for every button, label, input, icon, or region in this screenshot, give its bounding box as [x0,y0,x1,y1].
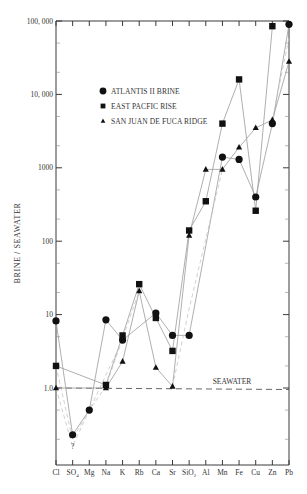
y-tick-label: 1000 [38,163,53,172]
y-tick-label: 100, 000 [27,17,54,26]
circle-marker [285,21,292,28]
x-category-label: Pb [285,468,293,477]
y-tick-label: 100 [42,237,54,246]
trend-dashed-line [56,291,139,447]
x-category-label: Al [202,468,210,477]
legend-label: SAN JUAN DE FUCA RIDGE [111,117,208,126]
x-category-label: Mg [84,468,95,477]
x-category-label: Na [102,468,111,477]
circle-marker [235,156,242,163]
square-marker [269,23,275,29]
x-category-label: Mn [217,468,228,477]
square-marker [53,363,59,369]
triangle-marker [153,364,159,370]
circle-marker [169,332,176,339]
series-markers: ? [52,21,292,452]
x-category-label: Fe [235,468,243,477]
circle-marker [186,332,193,339]
circle-marker [219,153,226,160]
y-tick-label: 10, 000 [31,90,54,99]
circle-marker [102,316,109,323]
question-mark-annotation: ? [71,442,75,451]
square-marker [101,104,106,109]
triangle-marker [53,385,59,391]
triangle-marker [101,118,106,122]
legend-item: ATLANTIS II BRINE [100,87,181,96]
y-tick-label: 1.0 [44,384,54,393]
x-category-label: SO4 [67,468,80,478]
circle-marker [52,317,59,324]
square-marker [169,348,175,354]
triangle-marker [286,58,292,64]
seawater-label: SEAWATER [213,377,252,386]
square-marker [219,120,225,126]
legend-label: EAST PACFIC RISE [111,102,177,111]
x-category-label: Cl [52,468,59,477]
triangle-marker [269,116,275,122]
square-marker [136,281,142,287]
y-axis-label: BRINE / SEAWATER [13,202,22,283]
x-category-label: Ca [152,468,161,477]
legend-label: ATLANTIS II BRINE [111,87,180,96]
x-category-label: Zn [268,468,277,477]
triangle-marker [253,125,259,131]
axes: 100, 00010, 0001000100101.0ClSO4MgNaKRbC… [27,17,293,479]
circle-marker [252,193,259,200]
square-marker [253,208,259,214]
legend-item: SAN JUAN DE FUCA RIDGE [101,117,208,126]
x-category-label: K [120,468,126,477]
circle-marker [69,431,76,438]
chart-canvas: 100, 00010, 0001000100101.0ClSO4MgNaKRbC… [0,0,307,494]
circle-marker [100,88,107,95]
legend: ATLANTIS II BRINEEAST PACFIC RISESAN JUA… [100,87,208,126]
y-tick-label: 10 [46,310,54,319]
x-category-label: Sr [169,468,176,477]
square-marker [236,76,242,82]
legend-item: EAST PACFIC RISE [101,102,178,111]
circle-marker [86,406,93,413]
square-marker [119,332,125,338]
square-marker [203,198,209,204]
x-category-label: Cu [251,468,260,477]
square-marker [153,315,159,321]
triangle-marker [119,358,125,364]
trend-dashed-line [256,37,289,128]
x-category-label: Rb [135,468,144,477]
x-category-label: SiO2 [182,468,197,478]
triangle-marker [203,166,209,172]
